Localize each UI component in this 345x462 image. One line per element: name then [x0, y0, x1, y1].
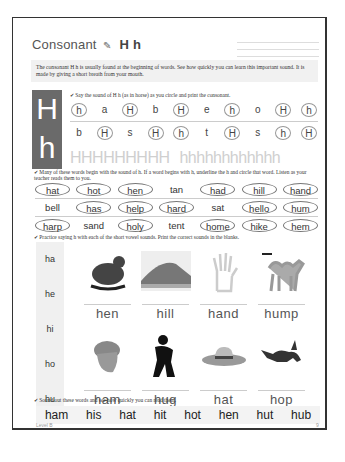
footer-page-number: 9 — [316, 422, 319, 428]
letter-item[interactable]: h — [301, 103, 317, 117]
reading-word: hut — [257, 408, 274, 422]
letter-item[interactable]: s — [122, 126, 138, 140]
letter-item[interactable]: a — [97, 103, 113, 117]
reading-word: hub — [291, 408, 311, 422]
syllable: ho — [36, 347, 64, 382]
letter-item[interactable]: h — [173, 126, 189, 140]
trace-row: HHHHHHHHH hhhhhhhhhhhh — [70, 149, 286, 167]
letter-item[interactable]: b — [148, 103, 164, 117]
word-item[interactable]: has — [76, 201, 111, 214]
instruction-4: ✔ Sound out these words and see how quic… — [34, 397, 319, 403]
word-item[interactable]: tan — [159, 183, 194, 196]
word-row-2: bellhashelphardsathellohum — [35, 201, 318, 214]
divider — [35, 198, 318, 199]
word-row-1: hathothentanhadhillhand — [35, 183, 318, 196]
letter-item[interactable]: h — [275, 126, 291, 140]
trace-upper[interactable]: HHHHHHHHH — [70, 149, 170, 166]
word-row-3: harpsandholytenthomehikehem — [35, 219, 318, 232]
reading-word: hit — [154, 408, 167, 422]
word-item[interactable]: hello — [242, 201, 277, 214]
hat-icon — [199, 332, 249, 382]
word-item[interactable]: hen — [118, 183, 153, 196]
word-item[interactable]: hat — [35, 183, 70, 196]
letter-item[interactable]: h — [224, 103, 240, 117]
reading-word: hen — [219, 408, 239, 422]
syllable: ha — [36, 242, 64, 277]
picture-label[interactable]: hand — [200, 304, 247, 321]
letter-item[interactable]: H — [275, 103, 291, 117]
word-item[interactable]: help — [118, 201, 153, 214]
hug-icon — [141, 332, 191, 382]
reading-word: hat — [119, 408, 136, 422]
letter-box: H h — [32, 90, 62, 169]
hand-icon — [199, 246, 249, 296]
letter-item[interactable]: H — [173, 103, 189, 117]
word-item[interactable]: hem — [283, 219, 318, 232]
trace-lower[interactable]: hhhhhhhhhhhh — [179, 149, 280, 166]
worksheet-page: Consonant ✎ H h The consonant H h is usu… — [12, 17, 327, 430]
word-item[interactable]: hard — [159, 201, 194, 214]
letter-item[interactable]: h — [71, 103, 87, 117]
picture-label[interactable]: hen — [84, 304, 131, 321]
word-item[interactable]: hot — [76, 183, 111, 196]
word-item[interactable]: sat — [200, 201, 235, 214]
letter-item[interactable]: e — [199, 103, 215, 117]
picture-label[interactable]: hump — [258, 304, 305, 321]
hill-icon — [141, 246, 191, 296]
camel-icon — [257, 246, 307, 296]
title-letters: H h — [120, 37, 142, 52]
divider — [35, 216, 318, 217]
divider — [70, 121, 318, 122]
letter-row-1: haHbHehoHh — [71, 103, 317, 117]
instruction-3: ✔ Practice saying h with each of the sho… — [34, 234, 319, 240]
title-word: Consonant — [32, 37, 97, 52]
ham-icon — [83, 332, 133, 382]
reading-word: ham — [45, 408, 68, 422]
syllable-column: hahehihohu — [36, 242, 64, 418]
instruction-1: ✔ Say the sound of H h (as in horse) as … — [70, 92, 320, 98]
word-item[interactable]: sand — [76, 219, 111, 232]
word-item[interactable]: had — [200, 183, 235, 196]
letter-item[interactable]: o — [250, 103, 266, 117]
word-item[interactable]: hill — [242, 183, 277, 196]
picture-label[interactable]: hill — [142, 304, 189, 321]
picture-cell: hump — [254, 242, 309, 327]
letter-item[interactable]: t — [199, 126, 215, 140]
name-lines — [237, 36, 319, 57]
picture-cell: hen — [80, 242, 135, 327]
reading-words: hamhishathithothenhuthub — [36, 406, 320, 424]
reading-word: his — [86, 408, 101, 422]
intro-text: The consonant H h is usually found at th… — [31, 60, 318, 82]
word-item[interactable]: harp — [35, 219, 70, 232]
word-item[interactable]: hike — [242, 219, 277, 232]
reading-word: hot — [184, 408, 201, 422]
letter-row-2: bHsHhtHshH — [71, 126, 317, 140]
letter-lower: h — [32, 129, 62, 168]
letter-item[interactable]: H — [224, 126, 240, 140]
instruction-2: ✔ Many of these words begin with the sou… — [34, 169, 319, 182]
rabbit-icon — [257, 332, 307, 382]
word-item[interactable]: tent — [159, 219, 194, 232]
letter-item[interactable]: b — [71, 126, 87, 140]
pencil-icon: ✎ — [103, 40, 111, 51]
hen-icon — [83, 246, 133, 296]
letter-item[interactable]: H — [122, 103, 138, 117]
picture-cell: hand — [196, 242, 251, 327]
syllable: he — [36, 277, 64, 312]
picture-cell: hill — [138, 242, 193, 327]
letter-item[interactable]: s — [250, 126, 266, 140]
letter-upper: H — [32, 90, 62, 129]
letter-item[interactable]: H — [148, 126, 164, 140]
letter-item[interactable]: H — [97, 126, 113, 140]
word-item[interactable]: holy — [118, 219, 153, 232]
word-item[interactable]: bell — [35, 201, 70, 214]
letter-item[interactable]: H — [301, 126, 317, 140]
page-title: Consonant ✎ H h — [32, 37, 141, 52]
word-item[interactable]: home — [200, 219, 235, 232]
footer-level: Level B — [36, 422, 53, 428]
word-item[interactable]: hand — [283, 183, 318, 196]
word-item[interactable]: hum — [283, 201, 318, 214]
syllable: hi — [36, 312, 64, 347]
